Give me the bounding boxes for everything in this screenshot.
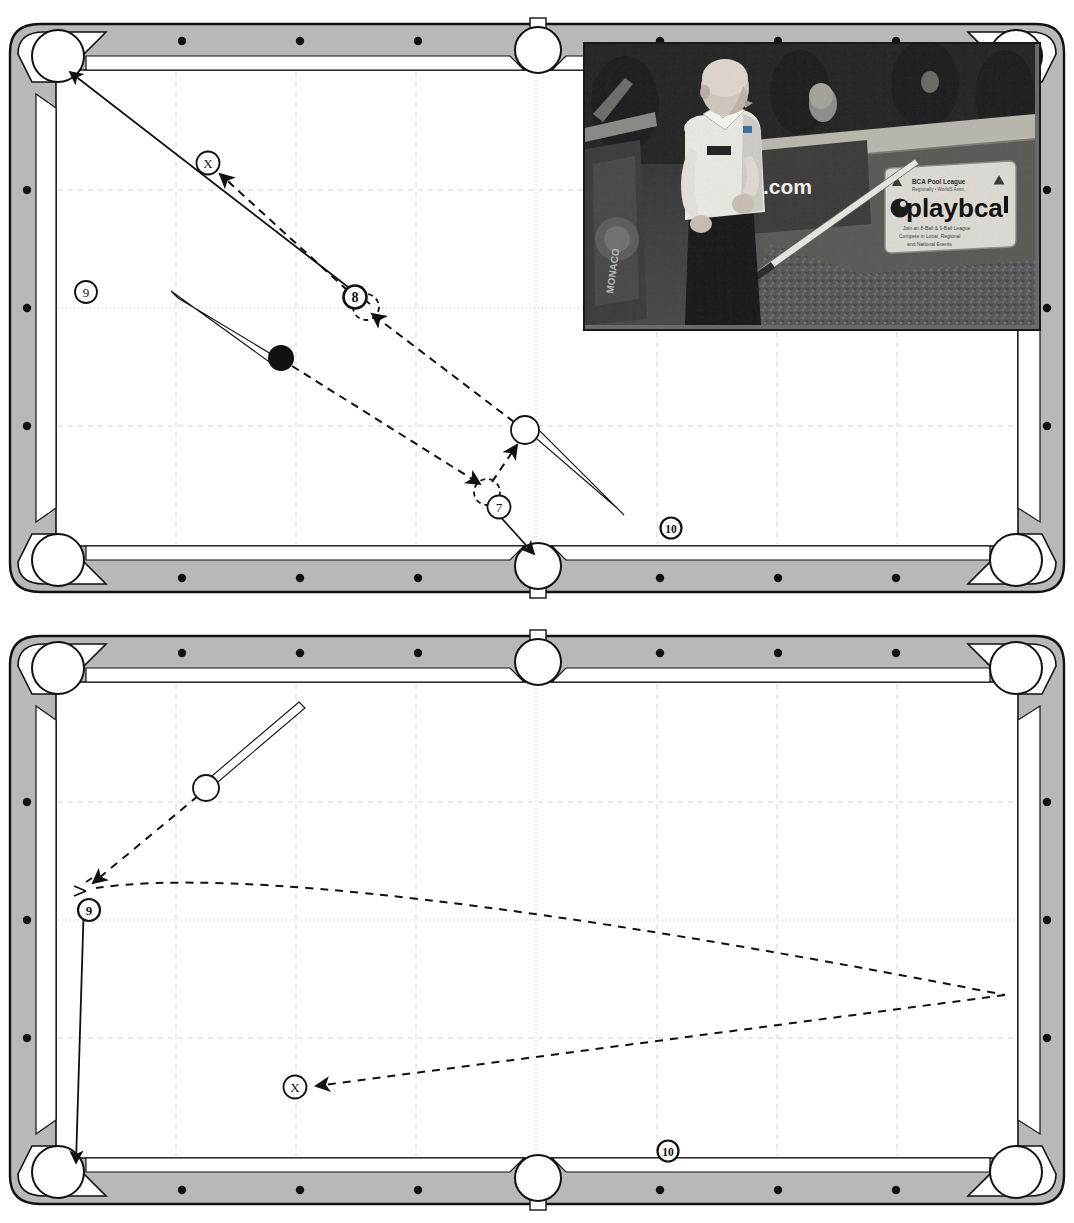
ball-label-9-text: 9	[86, 903, 93, 918]
ball-label-8: 8	[344, 286, 367, 309]
ball-label-7: 7	[488, 496, 511, 519]
bottom-pool-table-diagram: 9 X 10	[0, 620, 1074, 1220]
ball-label-9: 9	[75, 281, 97, 303]
ball-label-10-text: 10	[662, 1146, 674, 1158]
ball-label-9: 9	[78, 899, 100, 921]
pool-player-photograph: MONACO .com BCA Pool League Regionally •…	[583, 42, 1041, 331]
ball-label-10: 10	[658, 1141, 679, 1162]
photo-content: MONACO .com BCA Pool League Regionally •…	[585, 44, 1035, 325]
ball-label-10-text: 10	[665, 523, 677, 535]
ball-label-7-text: 7	[496, 500, 503, 515]
object-ball-solid	[268, 345, 294, 371]
ball-label-8-text: 8	[352, 290, 359, 305]
ball-label-X-text: X	[203, 156, 213, 171]
cue-ball	[193, 775, 219, 801]
ball-label-X-text: X	[290, 1080, 300, 1095]
ball-label-X: X	[197, 152, 220, 175]
cue-ball	[511, 416, 539, 444]
ball-label-X: X	[284, 1076, 307, 1099]
billiards-diagram-page: X 8 9 7 10	[0, 0, 1074, 1223]
ball-label-10: 10	[661, 518, 682, 539]
table-frame	[10, 636, 1064, 1204]
ball-label-9-text: 9	[83, 285, 90, 300]
bottom-table-svg: 9 X 10	[0, 620, 1074, 1220]
